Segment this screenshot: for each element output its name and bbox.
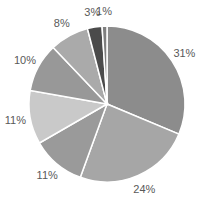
slice-label: 1% bbox=[96, 5, 112, 17]
slice-label: 8% bbox=[54, 17, 70, 29]
slice-label: 31% bbox=[173, 47, 195, 59]
slice-label: 24% bbox=[133, 183, 155, 195]
pie-chart: 31%24%11%11%10%8%3%1% bbox=[0, 0, 207, 200]
pie-slices bbox=[29, 26, 185, 182]
slice-label: 11% bbox=[5, 114, 26, 126]
slice-label: 11% bbox=[37, 169, 58, 181]
slice-label: 10% bbox=[14, 54, 36, 66]
